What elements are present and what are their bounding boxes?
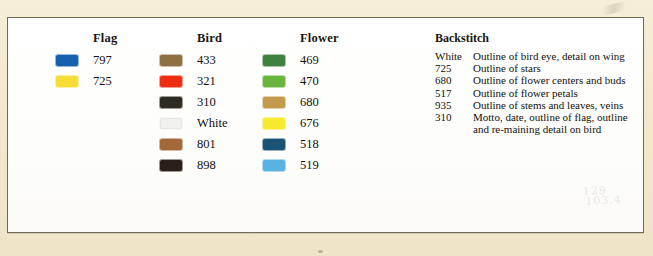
floss-code: 310	[197, 96, 216, 109]
backstitch-row: 935 Outline of stems and leaves, veins	[435, 99, 641, 111]
floss-column-header-flag: Flag	[56, 31, 160, 45]
backstitch-code: 310	[435, 111, 473, 135]
floss-row: 676	[263, 113, 363, 134]
backstitch-description: Outline of stems and leaves, veins	[473, 99, 641, 111]
backstitch-code: 517	[435, 87, 473, 99]
backstitch-description: Outline of bird eye, detail on wing	[473, 50, 641, 62]
swatch-wrap	[160, 55, 197, 66]
floss-column-flag: Flag 797 725	[56, 31, 160, 176]
swatch-wrap	[160, 139, 197, 150]
floss-row: 680	[263, 92, 363, 113]
color-swatch-801	[160, 139, 182, 150]
floss-code: 725	[93, 75, 112, 88]
swatch-wrap	[263, 118, 300, 129]
pencil-annotation-line-2: 103.4	[585, 195, 622, 207]
floss-row: 310	[160, 92, 263, 113]
floss-column-header-bird: Bird	[160, 31, 263, 45]
floss-code: 898	[197, 159, 216, 172]
backstitch-code: 935	[435, 99, 473, 111]
backstitch-section: Backstitch White Outline of bird eye, de…	[435, 31, 641, 135]
floss-code: 469	[300, 54, 319, 67]
floss-row: 797	[56, 50, 160, 71]
floss-row: 470	[263, 71, 363, 92]
backstitch-description: Motto, date, outline of flag, outline an…	[473, 111, 641, 135]
floss-row: White	[160, 113, 263, 134]
backstitch-description: Outline of flower petals	[473, 87, 641, 99]
floss-column-bird: Bird 433 321 310	[160, 31, 263, 176]
floss-row: 725	[56, 71, 160, 92]
floss-column-header-flower: Flower	[263, 31, 363, 45]
backstitch-code: White	[435, 50, 473, 62]
backstitch-row: 725 Outline of stars	[435, 62, 641, 74]
swatch-wrap	[263, 76, 300, 87]
color-swatch-433	[160, 55, 182, 66]
swatch-wrap	[263, 139, 300, 150]
floss-code: 676	[300, 117, 319, 130]
floss-row: 801	[160, 134, 263, 155]
floss-row: 469	[263, 50, 363, 71]
floss-color-columns: Flag 797 725 Bird 433	[56, 31, 363, 176]
swatch-wrap	[160, 118, 197, 129]
color-swatch-898	[160, 160, 182, 171]
backstitch-header: Backstitch	[435, 31, 641, 45]
color-swatch-519	[263, 160, 285, 171]
floss-code: 797	[93, 54, 112, 67]
color-swatch-310	[160, 97, 182, 108]
floss-column-flower: Flower 469 470 680	[263, 31, 363, 176]
backstitch-row: White Outline of bird eye, detail on win…	[435, 50, 641, 62]
color-swatch-797	[56, 55, 78, 66]
floss-row: 898	[160, 155, 263, 176]
color-swatch-321	[160, 76, 182, 87]
floss-code: White	[197, 117, 228, 130]
backstitch-code: 680	[435, 74, 473, 86]
backstitch-row: 310 Motto, date, outline of flag, outlin…	[435, 111, 641, 135]
floss-row: 433	[160, 50, 263, 71]
pencil-annotation: 129 103.4	[582, 185, 621, 207]
color-swatch-680	[263, 97, 285, 108]
backstitch-row: 517 Outline of flower petals	[435, 87, 641, 99]
floss-code: 470	[300, 75, 319, 88]
floss-code: 680	[300, 96, 319, 109]
backstitch-description: Outline of flower centers and buds	[473, 74, 641, 86]
backstitch-description: Outline of stars	[473, 62, 641, 74]
floss-code: 321	[197, 75, 216, 88]
floss-code: 801	[197, 138, 216, 151]
swatch-wrap	[56, 55, 93, 66]
swatch-wrap	[263, 160, 300, 171]
color-swatch-469	[263, 55, 285, 66]
paper-speck	[318, 250, 323, 253]
floss-key-card: Flag 797 725 Bird 433	[7, 17, 644, 233]
swatch-wrap	[263, 97, 300, 108]
color-swatch-676	[263, 118, 285, 129]
swatch-wrap	[56, 76, 93, 87]
swatch-wrap	[160, 160, 197, 171]
swatch-wrap	[263, 55, 300, 66]
backstitch-row: 680 Outline of flower centers and buds	[435, 74, 641, 86]
color-swatch-470	[263, 76, 285, 87]
backstitch-code: 725	[435, 62, 473, 74]
color-swatch-518	[263, 139, 285, 150]
color-swatch-725	[56, 76, 78, 87]
floss-code: 518	[300, 138, 319, 151]
floss-code: 433	[197, 54, 216, 67]
swatch-wrap	[160, 76, 197, 87]
color-swatch-white	[160, 118, 182, 129]
floss-row: 518	[263, 134, 363, 155]
floss-row: 321	[160, 71, 263, 92]
floss-row: 519	[263, 155, 363, 176]
swatch-wrap	[160, 97, 197, 108]
floss-code: 519	[300, 159, 319, 172]
